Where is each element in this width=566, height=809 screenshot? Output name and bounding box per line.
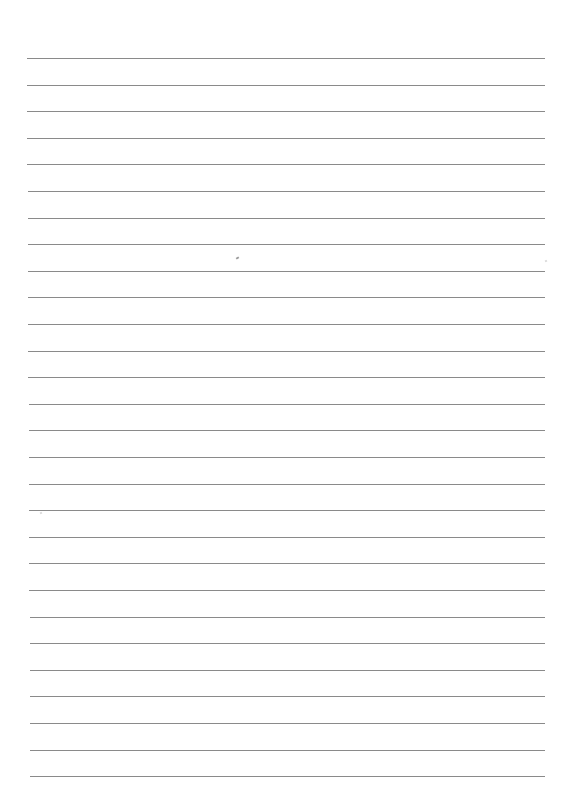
ruled-line [28, 377, 545, 378]
ruled-line [27, 138, 545, 139]
ruled-line [29, 404, 545, 405]
ruled-line [29, 537, 545, 538]
ruled-line [30, 670, 545, 671]
scan-speck [545, 260, 548, 263]
ruled-line [30, 643, 545, 644]
ruled-line [29, 563, 545, 564]
ruled-line [27, 111, 545, 112]
ruled-line [28, 271, 545, 272]
ruled-line [28, 297, 545, 298]
ruled-line [28, 351, 545, 352]
lined-paper-sheet [0, 0, 566, 809]
ruled-line [29, 484, 545, 485]
ruled-line [27, 58, 545, 59]
ruled-line [30, 723, 545, 724]
scan-speck [40, 512, 43, 515]
ruled-line [27, 164, 545, 165]
ruled-line [28, 244, 545, 245]
ruled-line [27, 85, 545, 86]
ruled-line [29, 590, 545, 591]
ruled-line [30, 696, 545, 697]
ruled-line [29, 457, 545, 458]
ruled-line [28, 218, 545, 219]
ruled-line [29, 430, 545, 431]
ruled-line [30, 617, 545, 618]
ruled-line [28, 191, 545, 192]
ruled-line [30, 750, 545, 751]
scan-speck [236, 256, 240, 259]
ruled-line [30, 776, 545, 777]
ruled-line [29, 510, 545, 511]
ruled-line [28, 324, 545, 325]
